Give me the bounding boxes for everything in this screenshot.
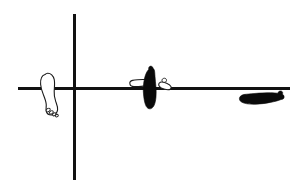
foot-center-small-toe [162, 78, 167, 82]
footprint-diagram [0, 0, 300, 190]
foot-center-solid-toe [149, 66, 154, 71]
figure-canvas: Line-art diagram of four feet arranged a… [0, 0, 300, 190]
foot-right-solid-toe [278, 91, 283, 95]
foot-right-solid-heel-notch [280, 96, 284, 99]
